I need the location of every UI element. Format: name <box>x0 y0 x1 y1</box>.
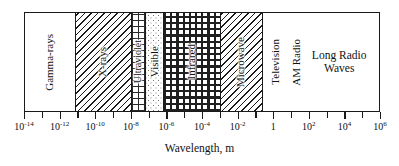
spectrum-band-box: Gamma-rays X-rays Ultraviolet Visible In… <box>24 12 380 112</box>
axis-tick-major <box>24 112 25 119</box>
axis-tick-minor <box>362 112 363 118</box>
axis-tick-major <box>380 112 381 119</box>
axis-tick-major <box>238 112 239 119</box>
axis-tick-label: 1 <box>271 121 276 132</box>
axis-label-wavelength: Wavelength, m <box>0 142 399 154</box>
axis-tick-minor <box>327 112 328 118</box>
radio-sublabel-group: Television AM Radio Long Radio Waves <box>263 13 379 111</box>
axis-tick-minor <box>77 112 78 118</box>
band-label-television: Television <box>269 39 283 85</box>
axis-tick-major <box>344 112 345 119</box>
axis-tick-minor <box>113 112 114 118</box>
axis-tick-label: 10-14 <box>14 121 33 132</box>
wavelength-axis: 10-1410-1210-1010-810-610-410-2110210410… <box>24 112 380 113</box>
axis-tick-major <box>273 112 274 119</box>
band-gamma-rays: Gamma-rays <box>25 13 75 111</box>
band-x-rays: X-rays <box>75 13 132 111</box>
band-label-microwave: Microwave <box>234 37 248 87</box>
band-label-long-radio-waves: Long Radio Waves <box>311 49 368 75</box>
band-label-x-rays: X-rays <box>96 47 110 77</box>
axis-tick-major <box>60 112 61 119</box>
axis-tick-major <box>131 112 132 119</box>
band-microwave: Microwave <box>220 13 262 111</box>
axis-tick-label: 10-4 <box>194 121 210 132</box>
axis-tick-minor <box>255 112 256 118</box>
band-label-gamma-rays: Gamma-rays <box>43 34 57 91</box>
axis-tick-minor <box>42 112 43 118</box>
axis-tick-label: 102 <box>302 121 316 132</box>
band-label-visible: Visible <box>148 46 162 77</box>
axis-tick-label: 10-8 <box>123 121 139 132</box>
axis-tick-major <box>95 112 96 119</box>
axis-tick-minor <box>184 112 185 118</box>
band-infrared: Infrared <box>163 13 220 111</box>
axis-tick-major <box>166 112 167 119</box>
electromagnetic-spectrum-figure: Gamma-rays X-rays Ultraviolet Visible In… <box>0 0 399 166</box>
axis-tick-label: 10-10 <box>86 121 105 132</box>
axis-tick-major <box>309 112 310 119</box>
band-label-am-radio: AM Radio <box>290 39 304 86</box>
axis-tick-label: 104 <box>338 121 352 132</box>
axis-tick-label: 10-2 <box>230 121 246 132</box>
band-label-ultraviolet: Ultraviolet <box>132 40 145 83</box>
band-visible: Visible <box>145 13 163 111</box>
band-label-infrared: Infrared <box>185 44 199 79</box>
axis-tick-label: 106 <box>373 121 387 132</box>
axis-tick-minor <box>220 112 221 118</box>
axis-tick-label: 10-12 <box>50 121 69 132</box>
axis-tick-minor <box>291 112 292 118</box>
band-ultraviolet: Ultraviolet <box>131 13 145 111</box>
long-radio-waves-line-1: Long Radio <box>312 49 367 61</box>
long-radio-waves-line-2: Waves <box>324 62 354 74</box>
axis-tick-major <box>202 112 203 119</box>
band-radio: Television AM Radio Long Radio Waves <box>262 13 379 111</box>
axis-tick-minor <box>149 112 150 118</box>
axis-tick-label: 10-6 <box>158 121 174 132</box>
